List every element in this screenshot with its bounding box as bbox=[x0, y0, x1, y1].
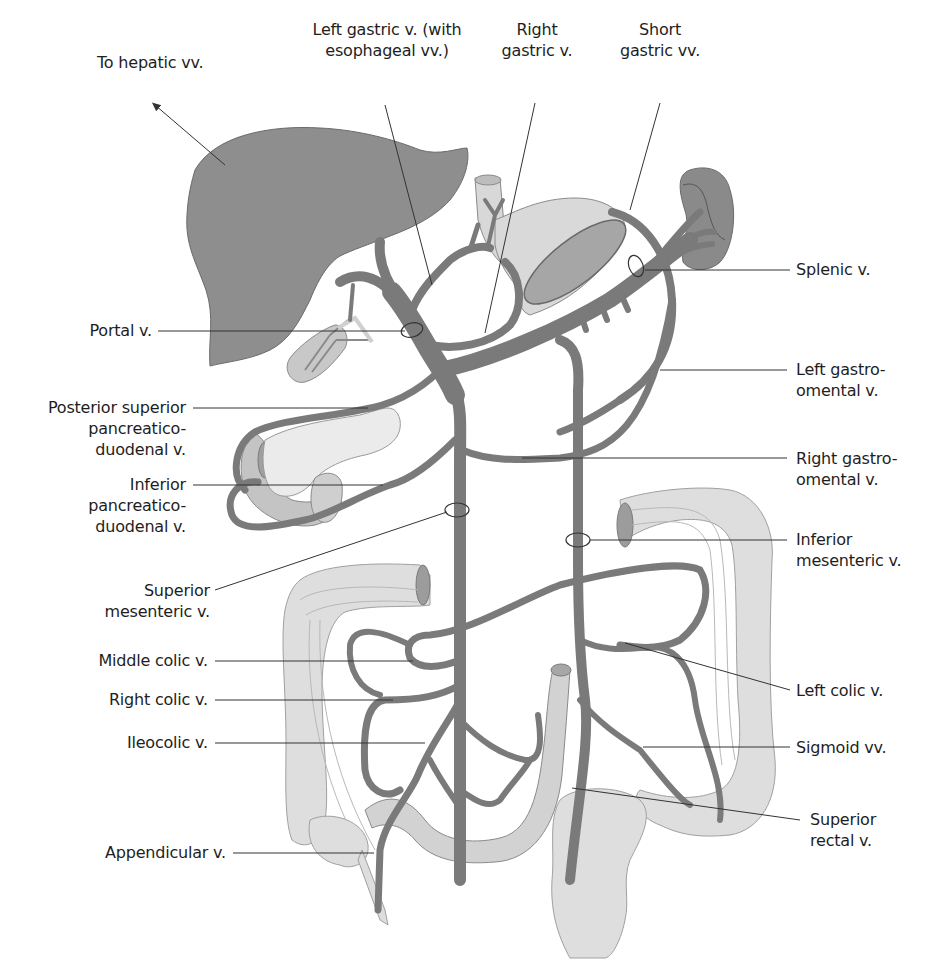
ascending-colon bbox=[283, 564, 430, 845]
right-colic-vein bbox=[364, 685, 460, 794]
label-short-gastric-veins: Short gastric vv. bbox=[615, 19, 705, 61]
label-middle-colic-vein: Middle colic v. bbox=[40, 650, 208, 671]
label-posterior-superior-pd-vein: Posterior superior pancreatico- duodenal… bbox=[20, 397, 186, 460]
label-portal-vein: Portal v. bbox=[60, 320, 152, 341]
left-gastroomental-vein bbox=[560, 400, 620, 432]
label-left-colic-vein: Left colic v. bbox=[796, 680, 883, 701]
label-left-gastroomental-vein: Left gastro- omental v. bbox=[796, 359, 885, 401]
appendix bbox=[358, 850, 388, 925]
left-gastric-vein bbox=[412, 247, 490, 310]
label-superior-rectal-vein: Superior rectal v. bbox=[810, 809, 876, 851]
label-splenic-vein: Splenic v. bbox=[796, 259, 870, 280]
label-right-gastric-vein: Right gastric v. bbox=[497, 19, 577, 61]
label-inferior-mesenteric-vein: Inferior mesenteric v. bbox=[796, 529, 902, 571]
label-sigmoid-veins: Sigmoid vv. bbox=[796, 737, 886, 758]
label-right-colic-vein: Right colic v. bbox=[40, 689, 208, 710]
label-inferior-pd-vein: Inferior pancreatico- duodenal v. bbox=[40, 474, 186, 537]
right-gastric-vein bbox=[430, 262, 519, 347]
label-left-gastric-vein: Left gastric v. (with esophageal vv.) bbox=[312, 19, 462, 61]
label-ileocolic-vein: Ileocolic v. bbox=[40, 732, 208, 753]
label-right-gastroomental-vein: Right gastro- omental v. bbox=[796, 448, 897, 490]
middle-colic-vein bbox=[408, 566, 705, 667]
to-hepatic-arrow bbox=[155, 105, 225, 165]
label-superior-mesenteric-vein: Superior mesenteric v. bbox=[60, 580, 210, 622]
cystic-v bbox=[350, 285, 353, 320]
label-to-hepatic-veins: To hepatic vv. bbox=[97, 52, 203, 73]
label-appendicular-vein: Appendicular v. bbox=[60, 842, 226, 863]
